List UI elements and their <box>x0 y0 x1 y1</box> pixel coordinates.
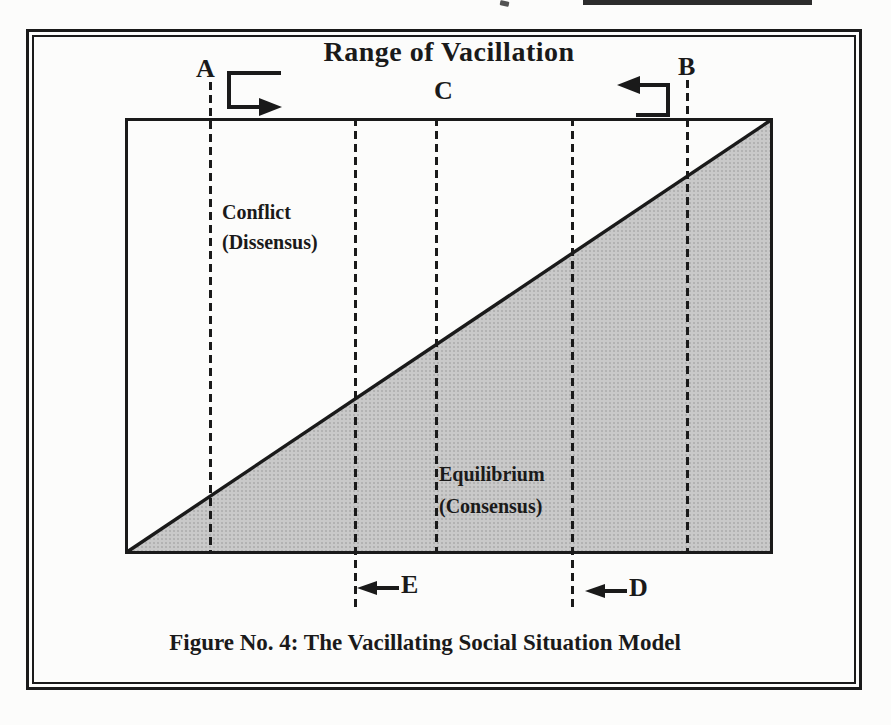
marker-b-label: B <box>678 54 695 80</box>
marker-c-label: C <box>434 78 453 104</box>
equilibrium-region-name: Equilibrium <box>439 458 545 490</box>
figure-title: Range of Vacillation <box>125 36 773 68</box>
equilibrium-region-qualifier: (Consensus) <box>439 490 545 522</box>
conflict-region-name: Conflict <box>222 197 318 227</box>
conflict-region-qualifier: (Dissensus) <box>222 227 318 257</box>
marker-d-label: D <box>629 575 648 601</box>
conflict-region-label: Conflict (Dissensus) <box>222 197 318 257</box>
dashed-line-b <box>686 80 689 554</box>
u-turn-left-arrow-icon <box>616 73 674 119</box>
dashed-line-c <box>435 118 438 554</box>
marker-a-label: A <box>196 56 215 82</box>
marker-e-label: E <box>401 572 418 598</box>
u-turn-right-arrow-icon <box>225 69 283 117</box>
figure-caption: Figure No. 4: The Vacillating Social Sit… <box>100 630 750 656</box>
scan-speck <box>500 0 510 7</box>
dashed-line-a <box>209 82 212 554</box>
dashed-line-d <box>571 118 574 612</box>
dashed-line-e <box>354 118 357 612</box>
equilibrium-region-label: Equilibrium (Consensus) <box>439 458 545 522</box>
left-arrow-icon-d <box>584 582 628 600</box>
scan-artifact-bar <box>583 0 812 5</box>
left-arrow-icon-e <box>356 579 400 597</box>
